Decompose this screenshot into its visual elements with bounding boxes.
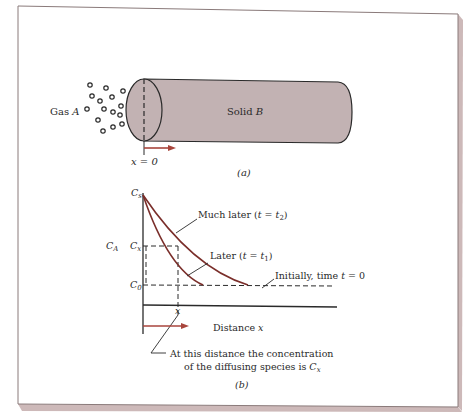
caption-a: (a) — [237, 167, 251, 178]
gas-label: Gas A — [50, 106, 80, 117]
x-axis-label: Distance x — [213, 322, 264, 333]
tick-x: x — [175, 305, 181, 316]
figure-page: Gas A Solid B x = 0 (a) — [0, 0, 469, 420]
caption-b: (b) — [235, 379, 249, 390]
annotation-line-1: At this distance the concentration — [169, 348, 333, 359]
solid-label: Solid B — [227, 106, 263, 117]
origin-label: x = 0 — [131, 156, 158, 167]
label-initially: Initially, time t = 0 — [275, 270, 365, 281]
